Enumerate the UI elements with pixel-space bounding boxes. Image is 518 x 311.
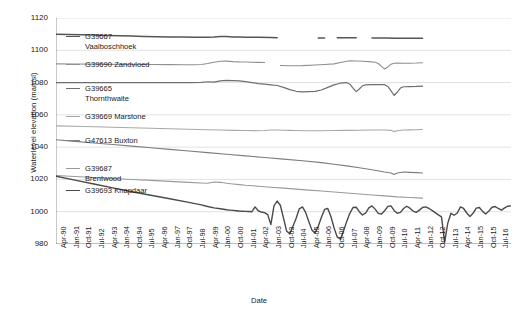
y-tick-label: 1120 xyxy=(14,14,48,22)
plot-canvas xyxy=(56,18,511,244)
x-tick-label: Apr-05 xyxy=(312,226,321,248)
x-tick-label: Oct-12 xyxy=(438,226,447,248)
x-tick-label: Jan-03 xyxy=(274,226,283,248)
legend-label: G39665Thornthwaite xyxy=(85,84,129,103)
x-tick-label: Apr-11 xyxy=(413,227,422,248)
x-tick-label: Jul-95 xyxy=(147,228,156,248)
legend-swatch xyxy=(66,116,80,117)
legend-swatch xyxy=(66,190,80,191)
y-tick-label: 1080 xyxy=(14,79,48,87)
x-tick-label: Apr-96 xyxy=(160,226,169,248)
x-tick-label: Jan-00 xyxy=(223,226,232,248)
x-tick-label: Jul-16 xyxy=(501,228,510,248)
x-tick-label: Jan-15 xyxy=(476,226,485,248)
legend-swatch xyxy=(66,64,80,65)
x-axis-title: Date xyxy=(0,296,518,305)
legend-label-line1: G39687 xyxy=(85,164,121,174)
x-tick-label: Jan-06 xyxy=(324,226,333,248)
x-tick-label: Oct-97 xyxy=(185,226,194,248)
x-tick-label: Jul-04 xyxy=(299,228,308,248)
y-tick-label: 1020 xyxy=(14,175,48,183)
x-tick-label: Apr-90 xyxy=(59,226,68,248)
x-tick-label: Oct-15 xyxy=(489,226,498,248)
x-tick-label: Apr-08 xyxy=(362,226,371,248)
legend-label: G39667Vaalboschhoek xyxy=(85,32,136,51)
x-tick-label: Oct-94 xyxy=(135,226,144,248)
x-tick-label: Jan-97 xyxy=(173,226,182,248)
legend-label: G39693 Knapdaar xyxy=(85,186,147,196)
x-tick-label: Jan-12 xyxy=(426,226,435,248)
y-tick-label: 1100 xyxy=(14,46,48,54)
x-tick-label: Apr-99 xyxy=(211,226,220,248)
legend-swatch xyxy=(66,36,80,37)
legend-label-line1: G47613 Buxton xyxy=(85,136,138,146)
legend-label-line1: G39669 Marstone xyxy=(85,112,146,122)
x-tick-label: Jul-92 xyxy=(97,228,106,248)
x-tick-label: Oct-03 xyxy=(287,226,296,248)
legend-swatch xyxy=(66,88,80,89)
legend-label-line1: G39667 xyxy=(85,32,136,42)
x-tick-label: Apr-93 xyxy=(110,226,119,248)
legend-swatch xyxy=(66,168,80,169)
x-tick-label: Apr-02 xyxy=(261,226,270,248)
y-tick-label: 1040 xyxy=(14,143,48,151)
x-tick-label: Jan-91 xyxy=(72,226,81,248)
legend-label-line2: Vaalboschhoek xyxy=(85,42,136,52)
legend-label: G39687Brentwood xyxy=(85,164,121,183)
x-tick-label: Apr-14 xyxy=(463,226,472,248)
legend-label-line1: G39693 Knapdaar xyxy=(85,186,147,196)
legend-label-line1: G39665 xyxy=(85,84,129,94)
x-tick-label: Jul-98 xyxy=(198,228,207,248)
waterlevel-chart: Waterlevel elevation (mamsl) 98010001020… xyxy=(0,0,518,311)
x-tick-label: Jan-94 xyxy=(122,226,131,248)
x-tick-label: Oct-91 xyxy=(84,226,93,248)
legend-label-line2: Brentwood xyxy=(85,174,121,184)
legend-label: G47613 Buxton xyxy=(85,136,138,146)
legend-swatch xyxy=(66,140,80,141)
y-tick-label: 980 xyxy=(14,240,48,248)
x-tick-label: Oct-06 xyxy=(337,226,346,248)
x-tick-label: Jul-01 xyxy=(249,228,258,248)
legend-label: G39669 Marstone xyxy=(85,112,146,122)
x-tick-label: Jul-10 xyxy=(400,228,409,248)
x-tick-label: Jul-13 xyxy=(451,228,460,248)
legend-label-line1: G39690 Zandvloed xyxy=(85,60,150,70)
y-tick-label: 1000 xyxy=(14,208,48,216)
legend-label-line2: Thornthwaite xyxy=(85,94,129,104)
x-tick-label: Jul-07 xyxy=(350,228,359,248)
x-tick-label: Jan-09 xyxy=(375,226,384,248)
y-tick-label: 1060 xyxy=(14,111,48,119)
plot-area xyxy=(56,18,511,244)
legend-label: G39690 Zandvloed xyxy=(85,60,150,70)
x-tick-label: Oct-09 xyxy=(388,226,397,248)
x-tick-label: Oct-00 xyxy=(236,226,245,248)
